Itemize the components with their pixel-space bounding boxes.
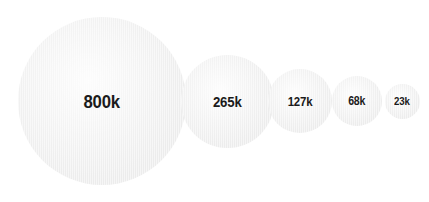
bubble-127k[interactable]: 127k bbox=[268, 69, 332, 133]
bubble-800k[interactable]: 800k bbox=[18, 17, 186, 185]
bubble-label-265k: 265k bbox=[213, 94, 242, 109]
bubble-265k[interactable]: 265k bbox=[181, 55, 274, 148]
bubble-label-68k: 68k bbox=[348, 95, 365, 107]
bubble-chart: 800k 265k 127k 68k 23k bbox=[0, 0, 429, 202]
bubble-23k[interactable]: 23k bbox=[385, 84, 420, 119]
bubble-label-23k: 23k bbox=[394, 96, 410, 107]
bubble-68k[interactable]: 68k bbox=[332, 76, 382, 126]
bubble-label-127k: 127k bbox=[288, 95, 313, 108]
bubble-label-800k: 800k bbox=[84, 92, 120, 111]
